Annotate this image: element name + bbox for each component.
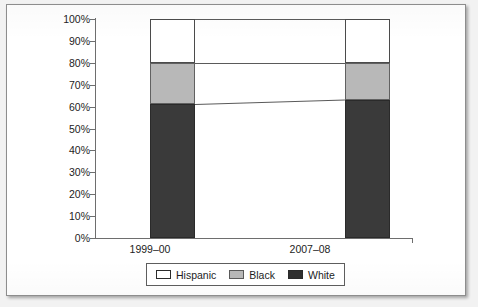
scanned-page: 100%90%80%70%60%50%40%30%20%10%0% 1999–0… — [0, 0, 478, 307]
legend-item-black: Black — [229, 269, 275, 281]
y-tick-label-10: 10% — [46, 211, 90, 221]
y-tick-text: 20% — [50, 189, 90, 199]
connector-line — [195, 63, 345, 64]
y-tick-text: 10% — [50, 211, 90, 221]
y-tick-100 — [90, 19, 95, 20]
legend-label-black: Black — [249, 269, 275, 281]
y-tick-label-100: 100% — [46, 14, 90, 24]
y-tick-label-50: 50% — [46, 124, 90, 134]
bar-segment-hispanic — [150, 19, 195, 63]
y-tick-0 — [90, 238, 95, 239]
y-tick-text: 100% — [50, 14, 90, 24]
y-tick-70 — [90, 85, 95, 86]
y-tick-label-20: 20% — [46, 189, 90, 199]
legend-item-white: White — [288, 269, 335, 281]
bar-segment-black — [345, 63, 390, 100]
y-tick-60 — [90, 107, 95, 108]
y-tick-text: 90% — [50, 36, 90, 46]
bar-segment-hispanic — [345, 19, 390, 63]
bar-segment-white — [150, 104, 195, 238]
legend-item-hispanic: Hispanic — [156, 269, 216, 281]
y-tick-label-30: 30% — [46, 167, 90, 177]
y-tick-text: 70% — [50, 80, 90, 90]
y-tick-10 — [90, 216, 95, 217]
y-tick-90 — [90, 41, 95, 42]
y-tick-text: 30% — [50, 167, 90, 177]
connector-line — [195, 100, 345, 105]
x-axis-label-1: 1999–00 — [95, 243, 205, 255]
stacked-bar — [345, 19, 390, 238]
y-tick-label-0: 0% — [46, 233, 90, 243]
y-tick-text: 80% — [50, 58, 90, 68]
x-axis-end-tick — [412, 238, 413, 243]
y-tick-50 — [90, 129, 95, 130]
y-tick-20 — [90, 194, 95, 195]
bar-segment-white — [345, 100, 390, 238]
y-tick-80 — [90, 63, 95, 64]
chart-legend: Hispanic Black White — [146, 263, 345, 286]
legend-label-hispanic: Hispanic — [176, 269, 216, 281]
x-axis-line — [95, 238, 413, 239]
chart-plot-area: 100%90%80%70%60%50%40%30%20%10%0% 1999–0… — [0, 0, 478, 307]
stacked-bar — [150, 19, 195, 238]
connector-line — [195, 19, 345, 20]
y-tick-30 — [90, 172, 95, 173]
y-tick-label-40: 40% — [46, 145, 90, 155]
legend-label-white: White — [308, 269, 335, 281]
y-tick-label-60: 60% — [46, 102, 90, 112]
y-tick-text: 0% — [50, 233, 90, 243]
y-tick-label-70: 70% — [46, 80, 90, 90]
legend-swatch-white — [288, 270, 303, 279]
bar-segment-black — [150, 63, 195, 105]
y-axis-line — [95, 18, 96, 239]
y-tick-40 — [90, 150, 95, 151]
legend-swatch-black — [229, 270, 244, 279]
y-tick-label-90: 90% — [46, 36, 90, 46]
y-tick-text: 50% — [50, 124, 90, 134]
y-tick-text: 60% — [50, 102, 90, 112]
x-axis-label-2: 2007–08 — [255, 243, 365, 255]
y-tick-label-80: 80% — [46, 58, 90, 68]
legend-swatch-hispanic — [156, 270, 171, 279]
y-tick-text: 40% — [50, 145, 90, 155]
